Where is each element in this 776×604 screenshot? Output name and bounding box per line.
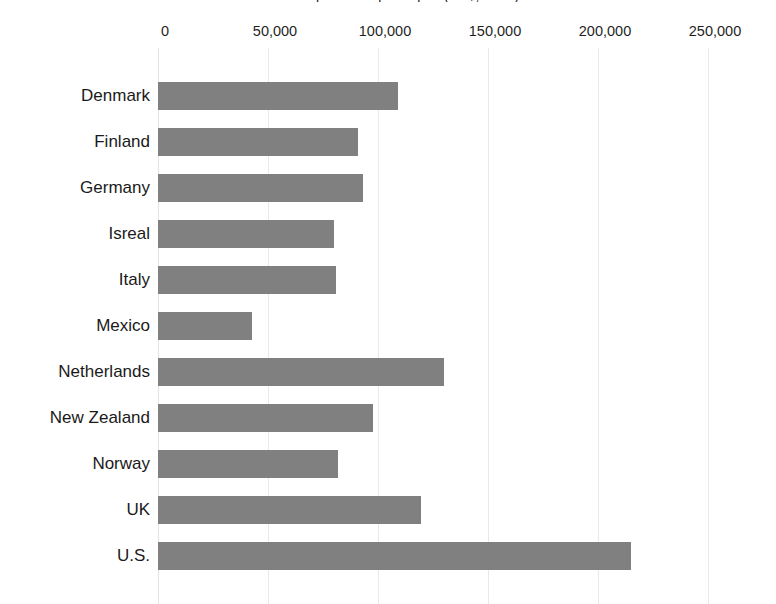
bar [158, 266, 336, 294]
bar [158, 542, 631, 570]
bar [158, 174, 363, 202]
y-tick-label: Denmark [0, 86, 150, 106]
x-tick-label: 50,000 [253, 22, 297, 40]
y-tick-label: New Zealand [0, 408, 150, 428]
bar [158, 82, 398, 110]
x-tick-label: 100,000 [359, 22, 411, 40]
plot-area [158, 48, 776, 604]
x-tick-label: 200,000 [579, 22, 631, 40]
bar [158, 450, 338, 478]
bar [158, 128, 358, 156]
bar [158, 496, 421, 524]
x-tick-label: 0 [161, 22, 169, 40]
x-axis-tick-labels: 050,000100,000150,000200,000250,000 [0, 22, 776, 42]
y-tick-label: UK [0, 500, 150, 520]
bar [158, 220, 334, 248]
y-tick-label: Italy [0, 270, 150, 290]
chart-title: Health expenditure per capita (US$, 2014… [0, 0, 776, 2]
bar [158, 312, 252, 340]
x-tick-label: 150,000 [469, 22, 521, 40]
gridline-250000 [708, 48, 709, 604]
y-tick-label: Netherlands [0, 362, 150, 382]
gridline-200000 [598, 48, 599, 604]
y-tick-label: Mexico [0, 316, 150, 336]
bar-chart: Health expenditure per capita (US$, 2014… [0, 0, 776, 604]
x-tick-label: 250,000 [689, 22, 741, 40]
y-tick-label: U.S. [0, 546, 150, 566]
bar [158, 404, 373, 432]
bar [158, 358, 444, 386]
y-tick-label: Isreal [0, 224, 150, 244]
gridline-150000 [488, 48, 489, 604]
y-tick-label: Germany [0, 178, 150, 198]
y-tick-label: Norway [0, 454, 150, 474]
y-tick-label: Finland [0, 132, 150, 152]
y-axis-category-labels: DenmarkFinlandGermanyIsrealItalyMexicoNe… [0, 48, 150, 604]
